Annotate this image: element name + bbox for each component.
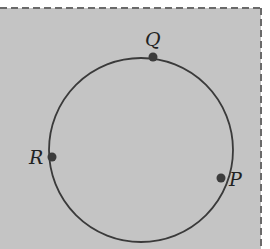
point-p-label: P	[228, 168, 243, 190]
diagram-background	[0, 8, 261, 249]
circle-diagram: Q R P	[0, 0, 270, 249]
point-q-dot	[149, 53, 158, 62]
point-r-label: R	[28, 146, 43, 168]
point-q-label: Q	[145, 28, 161, 50]
point-p-dot	[217, 174, 226, 183]
point-r-dot	[48, 153, 57, 162]
